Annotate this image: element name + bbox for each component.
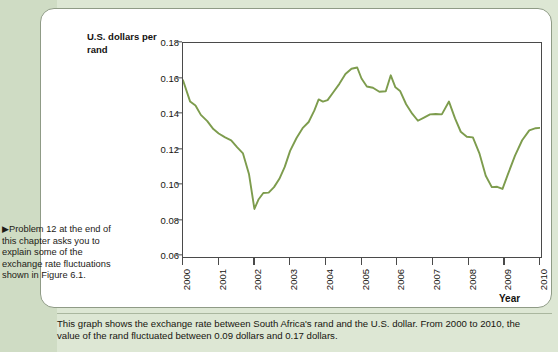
plot-area: [182, 42, 542, 258]
x-tick-mark: [539, 258, 540, 265]
x-tick-mark: [218, 258, 219, 265]
x-tick-label: 2001: [216, 269, 227, 290]
caption-divider: [57, 313, 552, 314]
x-tick-label: 2000: [181, 269, 192, 290]
series-line-usd-per-rand: [183, 68, 540, 209]
x-tick-mark: [325, 258, 326, 265]
x-tick-label: 2010: [538, 269, 549, 290]
side-note-problem-reference: ▶Problem 12 at the end of this chapter a…: [2, 224, 114, 282]
y-axis-tick-labels: 0.060.080.100.120.140.160.18: [147, 42, 179, 258]
x-tick-label: 2009: [502, 269, 513, 290]
x-tick-label: 2007: [430, 269, 441, 290]
x-tick-mark: [253, 258, 254, 265]
x-tick-label: 2006: [395, 269, 406, 290]
x-tick-mark: [361, 258, 362, 265]
exchange-rate-line-chart: [183, 43, 540, 256]
x-tick-mark: [432, 258, 433, 265]
x-axis-tick-labels: 2000200120022003200420052006200720082009…: [182, 269, 542, 309]
x-axis-title: Year: [499, 293, 520, 304]
x-tick-mark: [182, 258, 183, 265]
x-tick-label: 2005: [359, 269, 370, 290]
x-tick-mark: [468, 258, 469, 265]
x-tick-mark: [503, 258, 504, 265]
figure-caption: This graph shows the exchange rate betwe…: [57, 318, 537, 343]
x-tick-label: 2008: [466, 269, 477, 290]
x-tick-mark: [396, 258, 397, 265]
x-tick-label: 2004: [323, 269, 334, 290]
figure-panel: U.S. dollars per rand 0.060.080.100.120.…: [40, 8, 552, 308]
x-tick-label: 2002: [252, 269, 263, 290]
x-axis-tick-marks: [182, 258, 542, 266]
x-tick-label: 2003: [288, 269, 299, 290]
x-tick-mark: [289, 258, 290, 265]
